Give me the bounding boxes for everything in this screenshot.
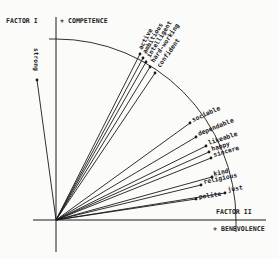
benevolence-label: + BENEVOLENCE — [213, 225, 265, 233]
vector-label: strong — [32, 48, 40, 71]
factor-ii-label: FACTOR II — [216, 208, 252, 216]
arrowhead-icon — [36, 79, 39, 82]
arrowhead-icon — [200, 184, 203, 187]
arrowhead-icon — [145, 61, 148, 64]
factor-i-label: FACTOR I — [6, 17, 38, 25]
arrowhead-icon — [142, 57, 145, 60]
vector-group: strongactiveambitiousintelligenthard-wor… — [32, 19, 243, 220]
vector-label: polite — [198, 190, 222, 201]
diagram-canvas: FACTOR I + COMPETENCE FACTOR II + BENEVO… — [0, 0, 279, 259]
vector-line-religious — [56, 185, 201, 220]
arrowhead-icon — [195, 136, 198, 139]
arrowhead-icon — [224, 192, 227, 195]
arrowhead-icon — [149, 66, 152, 69]
arrowhead-icon — [205, 145, 208, 148]
arrowhead-icon — [208, 151, 211, 154]
vector-line-ambitious — [56, 58, 143, 220]
arrowhead-icon — [139, 53, 142, 56]
competence-label: + COMPETENCE — [60, 17, 108, 25]
arrowhead-icon — [195, 198, 198, 201]
factor-diagram: FACTOR I + COMPETENCE FACTOR II + BENEVO… — [0, 0, 279, 259]
vector-line-sociable — [56, 123, 190, 220]
vector-line-strong — [37, 80, 56, 220]
vector-line-intelligent — [56, 62, 146, 220]
arrowhead-icon — [154, 72, 157, 75]
arrowhead-icon — [210, 157, 213, 160]
vector-line-sincere — [56, 158, 211, 220]
arrowhead-icon — [189, 122, 192, 125]
vector-label: just — [227, 183, 244, 194]
